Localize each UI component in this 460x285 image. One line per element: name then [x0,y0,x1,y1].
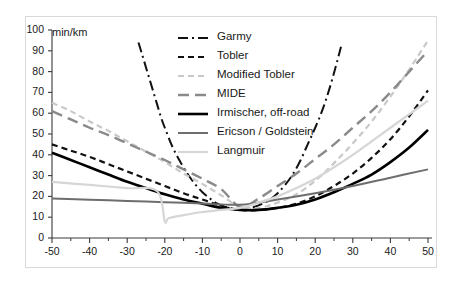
dashed-light-line-icon [178,68,208,80]
legend-item-label: Modified Tobler [217,68,295,80]
legend-item[interactable]: MIDE [178,83,314,102]
legend-item[interactable]: Modified Tobler [178,64,314,83]
legend-item[interactable]: Langmuir [178,140,314,159]
solid-light-line-icon [178,144,208,156]
legend-item-label: Irmischer, off-road [217,106,309,118]
legend-item[interactable]: Tobler [178,45,314,64]
solid-gray-line-icon [178,125,208,137]
chart-legend: GarmyToblerModified ToblerMIDEIrmischer,… [178,26,314,159]
legend-item[interactable]: Garmy [178,26,314,45]
legend-item-label: Tobler [217,49,248,61]
legend-item[interactable]: Ericson / Goldstein [178,121,314,140]
dashed-line-icon [178,49,208,61]
chart-figure: min/km 0102030405060708090100 -50-40-30-… [0,0,460,285]
legend-item-label: MIDE [217,87,246,99]
long-dash-line-icon [178,87,208,99]
solid-black-line-icon [178,106,208,118]
legend-item-label: Ericson / Goldstein [217,125,314,137]
legend-item[interactable]: Irmischer, off-road [178,102,314,121]
legend-item-label: Garmy [217,30,252,42]
legend-item-label: Langmuir [217,144,265,156]
dash-dot-line-icon [178,30,208,42]
